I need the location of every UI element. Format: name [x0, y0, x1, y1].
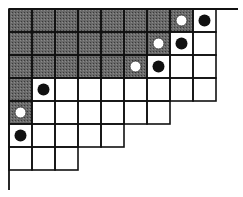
shaded-cell — [101, 32, 124, 55]
cell — [170, 55, 193, 78]
cell — [124, 101, 147, 124]
cell — [78, 101, 101, 124]
cell — [170, 78, 193, 101]
shaded-cell — [124, 9, 147, 32]
shaded-cell — [78, 55, 101, 78]
cell — [78, 124, 101, 147]
shaded-cell — [101, 55, 124, 78]
white-dot-icon — [153, 38, 164, 49]
shaded-cell — [9, 9, 32, 32]
shaded-cell — [55, 9, 78, 32]
black-dot-icon — [176, 38, 188, 50]
shaded-cell — [55, 55, 78, 78]
cell — [124, 78, 147, 101]
black-dot-icon — [15, 130, 27, 142]
cell — [55, 101, 78, 124]
cell — [55, 124, 78, 147]
young-diagram — [0, 0, 243, 197]
shaded-cell — [101, 9, 124, 32]
cell — [78, 78, 101, 101]
shaded-cell — [147, 9, 170, 32]
black-dot-icon — [199, 15, 211, 27]
cell — [55, 78, 78, 101]
cell — [32, 101, 55, 124]
cell — [193, 55, 216, 78]
shaded-cell — [78, 9, 101, 32]
shaded-cell — [32, 32, 55, 55]
cell — [101, 101, 124, 124]
cell — [147, 78, 170, 101]
cell — [9, 147, 32, 170]
cell — [55, 147, 78, 170]
white-dot-icon — [15, 107, 26, 118]
shaded-cell — [9, 55, 32, 78]
cell — [101, 124, 124, 147]
shaded-cell — [9, 32, 32, 55]
cell — [101, 78, 124, 101]
white-dot-icon — [176, 15, 187, 26]
shaded-cell — [78, 32, 101, 55]
shaded-cell — [32, 9, 55, 32]
shaded-cell — [32, 55, 55, 78]
shaded-cell — [9, 78, 32, 101]
cell — [193, 32, 216, 55]
black-dot-icon — [153, 61, 165, 73]
cell — [193, 78, 216, 101]
cell — [32, 147, 55, 170]
white-dot-icon — [130, 61, 141, 72]
cell — [32, 124, 55, 147]
shaded-cell — [55, 32, 78, 55]
shaded-cell — [124, 32, 147, 55]
cell — [147, 101, 170, 124]
black-dot-icon — [38, 84, 50, 96]
